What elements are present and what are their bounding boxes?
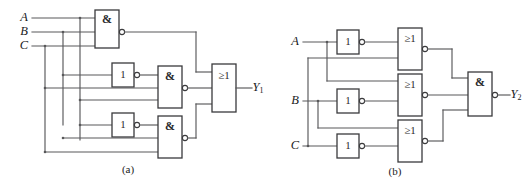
circuit-diagram-svg: A B C & 1 [0,0,526,185]
circuit-b: A B C 1 1 1 [290,28,521,178]
nor-gate-top-symbol: ≥1 [404,32,416,44]
inverter-b-bubble [359,98,364,103]
nand-gate-middle-symbol: & [165,69,175,83]
caption-b: (b) [389,165,402,178]
nand-gate-middle-bubble [182,85,187,90]
junction-inv-mid [62,74,65,77]
inverter-bottom-bubble [134,122,139,127]
input-c-label: C [291,138,300,152]
inverter-bottom-symbol: 1 [120,118,126,130]
caption-a: (a) [122,163,135,176]
circuit-a: A B C & 1 [19,10,263,176]
or-gate-output-symbol: ≥1 [218,69,230,81]
nor-gate-middle-symbol: ≥1 [404,78,416,90]
inverter-c-bubble [359,143,364,148]
inverter-middle-bubble [134,72,139,77]
junction-b [62,31,65,34]
nand-gate-top-symbol: & [102,12,112,26]
inverter-a-bubble [359,39,364,44]
junction-b-b [317,100,320,103]
junction-b-c [307,145,310,148]
nor-gate-top-bubble [422,46,427,51]
figure-logic-circuits: A B C & 1 [0,0,526,185]
inverter-b-symbol: 1 [345,94,351,106]
input-c-label: C [20,38,29,52]
junction-b-a [326,41,329,44]
junction-c [44,45,47,48]
nor-gate-bottom-symbol: ≥1 [404,124,416,136]
input-a-label: A [19,10,28,24]
input-a-label: A [290,34,299,48]
inverter-a-symbol: 1 [345,35,351,47]
nor-gate-bottom-bubble [422,138,427,143]
junction-bot-3 [44,151,47,154]
nand-gate-output-bubble [492,92,497,97]
inverter-middle-symbol: 1 [120,68,126,80]
junction-bot-2 [62,137,65,140]
nand-gate-bottom-symbol: & [165,119,175,133]
input-b-label: B [291,93,299,107]
input-b-label: B [20,24,28,38]
output-y1-label: Y1 [253,80,264,95]
junction-mid-2 [44,87,47,90]
junction-inv-bot [79,124,82,127]
inverter-c-symbol: 1 [345,139,351,151]
output-y2-label: Y2 [511,87,522,102]
nand-gate-top-bubble [119,29,124,34]
junction-mid-3 [79,99,82,102]
nand-gate-bottom-bubble [182,135,187,140]
nor-gate-middle-bubble [422,92,427,97]
nand-gate-output-symbol: & [475,75,485,89]
junction-a [79,17,82,20]
